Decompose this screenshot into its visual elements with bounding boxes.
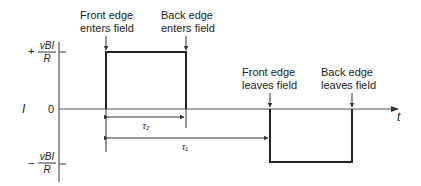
negative-pulse [270, 109, 352, 162]
current-vs-time-diagram: Front edge enters field Back edge enters… [0, 0, 421, 186]
annotation-back-leaves-line2: leaves field [321, 79, 376, 91]
positive-denominator: R [43, 53, 50, 64]
annotation-back-leaves-line1: Back edge [321, 66, 373, 78]
negative-sign: − [28, 157, 34, 169]
negative-denominator: R [43, 164, 50, 175]
annotation-back-enters-line2: enters field [161, 22, 215, 34]
tau1-label: τ₁ [182, 142, 188, 152]
annotation-back-enters-line1: Back edge [161, 9, 213, 21]
annotation-front-leaves-line2: leaves field [242, 79, 297, 91]
positive-numerator: vBI [40, 40, 55, 51]
zero-label: 0 [48, 103, 54, 115]
annotation-front-leaves-line1: Front edge [242, 66, 295, 78]
tau2-label: τ₂ [143, 121, 150, 131]
x-axis-label: t [397, 110, 401, 124]
negative-numerator: vBI [40, 151, 55, 162]
y-axis-label: I [22, 102, 26, 116]
annotation-front-enters-line1: Front edge [80, 9, 133, 21]
annotation-front-enters-line2: enters field [80, 22, 134, 34]
positive-sign: + [28, 45, 34, 57]
positive-pulse [106, 52, 186, 109]
